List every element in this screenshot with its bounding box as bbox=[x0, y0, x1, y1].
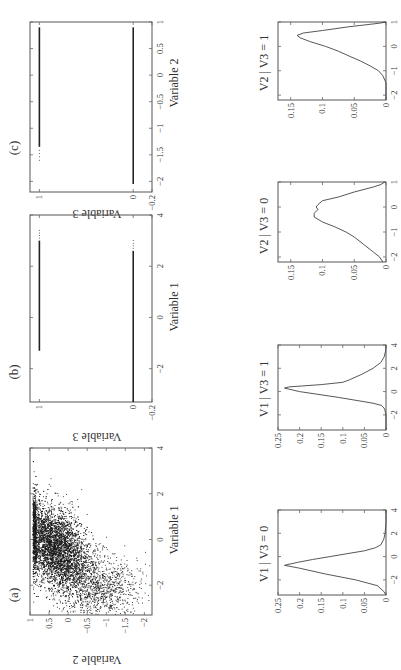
x-tick-label: −2 bbox=[389, 575, 399, 584]
density-curve bbox=[285, 345, 387, 430]
x-tick-label: 0 bbox=[155, 537, 165, 541]
outlier-point bbox=[39, 230, 40, 231]
x-tick-label: −0.5 bbox=[155, 94, 165, 109]
outlier-point bbox=[39, 232, 40, 233]
density-v2-v3-1: −2−10100.050.10.15 bbox=[278, 20, 399, 118]
outlier-point bbox=[39, 153, 40, 154]
y-tick-label: 0 bbox=[63, 618, 73, 622]
x-tick-label: −1 bbox=[155, 124, 165, 133]
x-tick-label: 2 bbox=[389, 531, 399, 535]
ylabel-c: Variable 3 bbox=[73, 207, 122, 221]
x-tick-label: 4 bbox=[389, 507, 399, 512]
outlier-point bbox=[133, 245, 134, 246]
x-tick-label: 0 bbox=[389, 554, 399, 558]
x-tick-label: 0.5 bbox=[155, 43, 165, 54]
y-tick-label: 0 bbox=[381, 103, 391, 107]
y-tick-label: 0.5 bbox=[44, 618, 54, 629]
density-curve bbox=[314, 182, 385, 262]
density-curve bbox=[285, 510, 387, 595]
y-tick-label: 0.05 bbox=[359, 433, 369, 448]
y-tick-label: 0 bbox=[381, 433, 391, 437]
x-tick-label: −1.5 bbox=[155, 147, 165, 162]
x-tick-label: −1 bbox=[389, 227, 399, 236]
panel-a-scatter: −2024−2−1.5−1−0.500.51 bbox=[25, 445, 165, 633]
x-tick-label: 2 bbox=[155, 264, 165, 268]
y-tick-label: −2 bbox=[139, 618, 149, 627]
x-tick-label: −2 bbox=[155, 364, 165, 373]
outlier-point bbox=[39, 150, 40, 151]
y-tick-label: 0 bbox=[381, 598, 391, 602]
density-title-3: V2 | V3 = 0 bbox=[257, 198, 271, 254]
x-tick-label: 2 bbox=[155, 492, 165, 496]
y-tick-label: 0.2 bbox=[295, 433, 305, 444]
density-title-1: V1 | V3 = 0 bbox=[257, 526, 271, 582]
x-tick-label: −1 bbox=[389, 66, 399, 75]
density-title-4: V2 | V3 = 1 bbox=[257, 35, 271, 91]
outlier-point bbox=[133, 243, 134, 244]
x-tick-label: 0 bbox=[155, 73, 165, 77]
y-tick-label: 0.15 bbox=[286, 265, 296, 280]
y-tick-label: 1 bbox=[25, 618, 35, 622]
x-tick-label: 4 bbox=[389, 342, 399, 347]
x-tick-label: −2 bbox=[389, 252, 399, 261]
y-tick-label: −0.2 bbox=[147, 195, 157, 210]
x-tick-label: 1 bbox=[155, 20, 165, 24]
y-tick-label: 0.2 bbox=[295, 598, 305, 609]
y-tick-label: 0.05 bbox=[349, 103, 359, 118]
y-tick-label: 0 bbox=[381, 265, 391, 269]
outlier-point bbox=[39, 160, 40, 161]
x-tick-label: 1 bbox=[389, 20, 399, 24]
y-tick-label: 0.15 bbox=[316, 433, 326, 448]
x-tick-label: 1 bbox=[389, 180, 399, 184]
x-tick-label: 0 bbox=[389, 205, 399, 209]
y-tick-label: 0.1 bbox=[317, 265, 327, 276]
density-v2-v3-0: −2−10100.050.10.15 bbox=[278, 180, 399, 280]
y-tick-label: 0.15 bbox=[286, 103, 296, 118]
y-tick-label: 1 bbox=[34, 195, 44, 199]
x-tick-label: −2 bbox=[389, 91, 399, 100]
panel-label-c: (c) bbox=[6, 141, 21, 155]
y-tick-label: 0.1 bbox=[338, 433, 348, 444]
y-tick-label: −0.5 bbox=[82, 618, 92, 633]
y-tick-label: 0.1 bbox=[317, 103, 327, 114]
x-tick-label: −2 bbox=[155, 581, 165, 590]
figure-svg: (a) (b) (c) Variable 1 Variable 2 Variab… bbox=[0, 0, 401, 670]
xlabel-b: Variable 1 bbox=[167, 283, 181, 332]
y-tick-label: 0 bbox=[128, 405, 138, 409]
x-tick-label: 2 bbox=[389, 366, 399, 370]
y-tick-label: −0.2 bbox=[147, 405, 157, 420]
x-tick-label: 0 bbox=[389, 44, 399, 48]
x-tick-label: −2 bbox=[155, 177, 165, 186]
y-tick-label: 1 bbox=[34, 405, 44, 409]
figure-canvas: (a) (b) (c) Variable 1 Variable 2 Variab… bbox=[0, 0, 401, 670]
ylabel-a: Variable 2 bbox=[73, 653, 122, 667]
x-tick-label: 0 bbox=[389, 389, 399, 393]
y-tick-label: −1 bbox=[101, 618, 111, 627]
y-tick-label: 0.1 bbox=[338, 598, 348, 609]
x-tick-label: 4 bbox=[155, 212, 165, 217]
x-tick-label: −2 bbox=[389, 410, 399, 419]
density-curve bbox=[297, 22, 386, 100]
scatter-points bbox=[33, 461, 150, 615]
panel-b-scatter: −2024−0.201 bbox=[30, 212, 165, 420]
x-tick-label: 0 bbox=[155, 315, 165, 319]
panel-c-scatter: −2−1.5−1−0.500.51−0.201 bbox=[30, 20, 165, 211]
panel-label-b: (b) bbox=[6, 364, 21, 379]
outlier-point bbox=[133, 240, 134, 241]
y-tick-label: 0.25 bbox=[273, 598, 283, 613]
outlier-point bbox=[39, 235, 40, 236]
outlier-point bbox=[39, 238, 40, 239]
outlier-point bbox=[39, 156, 40, 157]
y-tick-label: −1.5 bbox=[120, 618, 130, 633]
y-tick-label: 0.15 bbox=[316, 598, 326, 613]
y-tick-label: 0.25 bbox=[273, 433, 283, 448]
y-tick-label: 0.05 bbox=[359, 598, 369, 613]
xlabel-a: Variable 1 bbox=[167, 506, 181, 555]
plot-area: −2024−2−1.5−1−0.500.51−2024−0.201−2−1.5−… bbox=[25, 20, 399, 634]
density-v1-v3-0: −202400.050.10.150.20.25 bbox=[273, 507, 399, 613]
x-tick-label: 4 bbox=[155, 445, 165, 450]
panel-label-a: (a) bbox=[6, 588, 21, 602]
y-tick-label: 0.05 bbox=[349, 265, 359, 280]
density-title-2: V1 | V3 = 1 bbox=[257, 361, 271, 417]
outlier-point bbox=[133, 248, 134, 249]
